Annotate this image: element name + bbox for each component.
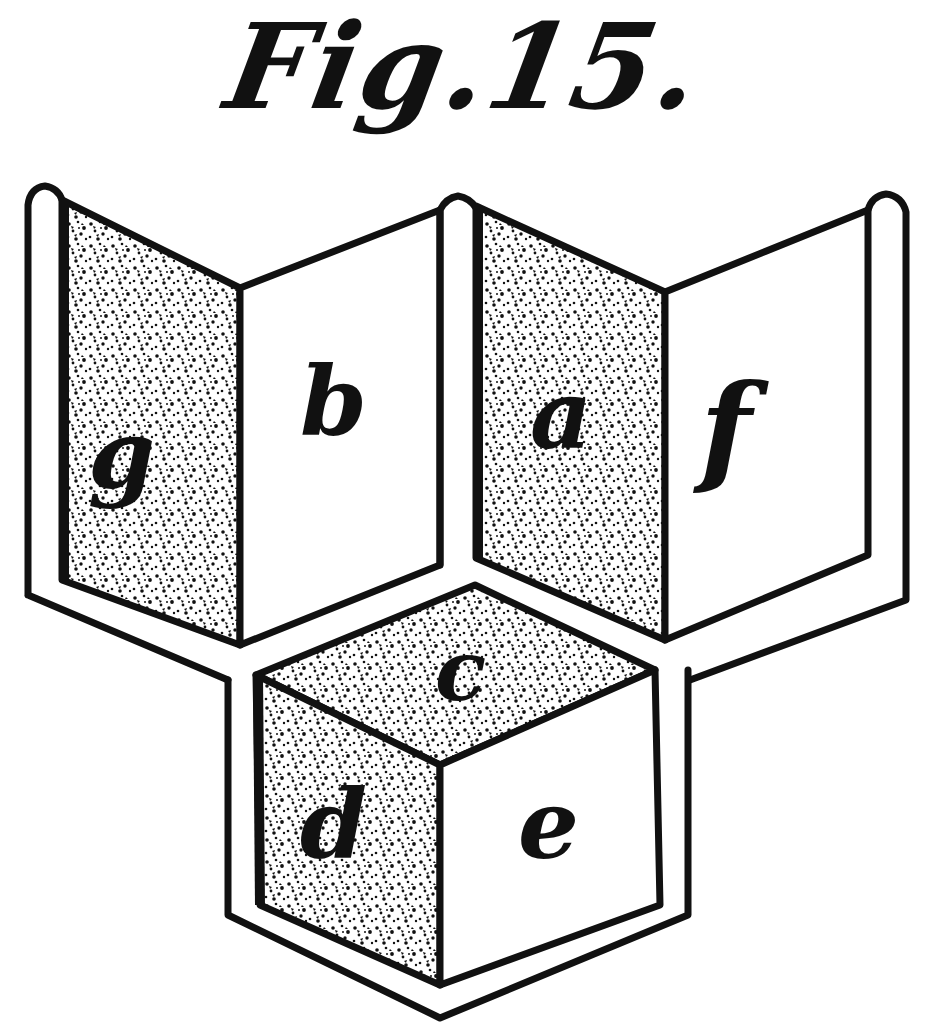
label-e: e — [518, 768, 579, 881]
unit-bottom-cube: c d e — [228, 585, 688, 1018]
label-b: b — [300, 345, 367, 458]
figure-diagram: g b a f c d e — [0, 0, 929, 1025]
unit-top-left: g b — [28, 186, 440, 680]
panel-f — [665, 210, 868, 640]
label-a: a — [530, 358, 592, 471]
label-c: c — [435, 621, 486, 720]
edge-d-left — [258, 675, 260, 905]
label-d: d — [300, 768, 367, 881]
frame-center-cap — [440, 196, 476, 565]
label-g: g — [88, 398, 155, 511]
unit-top-right: a f — [476, 194, 906, 680]
